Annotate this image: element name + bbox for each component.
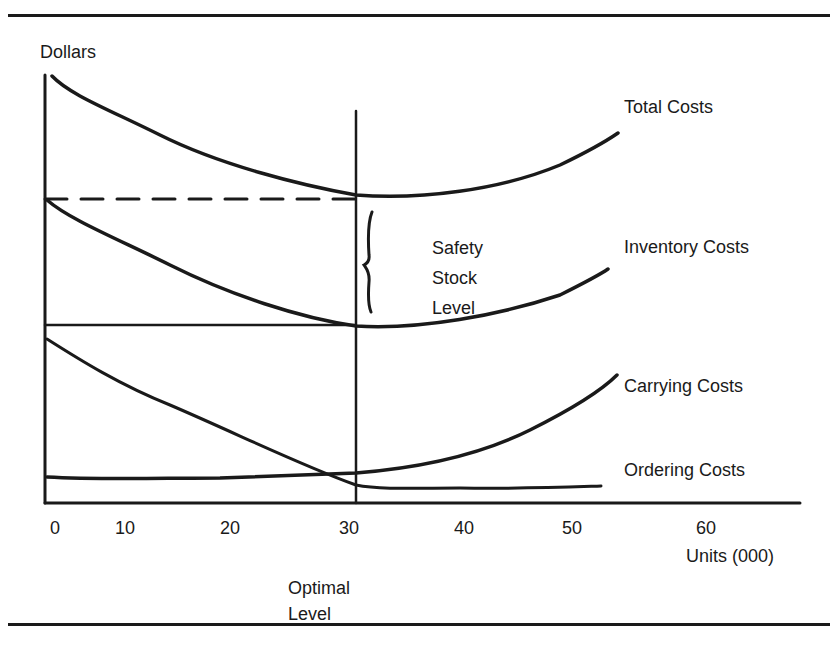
label-safety: Safety <box>432 236 483 260</box>
x-tick-20: 20 <box>220 516 240 540</box>
label-stock: Stock <box>432 266 477 290</box>
y-axis-label: Dollars <box>40 40 96 64</box>
x-tick-50: 50 <box>562 516 582 540</box>
label-optimal: Optimal <box>288 576 350 600</box>
label-level: Level <box>432 296 475 320</box>
total-costs-curve <box>52 76 618 196</box>
carrying-costs-curve <box>47 375 617 479</box>
x-tick-0: 0 <box>50 516 60 540</box>
label-ordering-costs: Ordering Costs <box>624 458 745 482</box>
label-total-costs: Total Costs <box>624 95 713 119</box>
safety-stock-brace <box>364 212 372 312</box>
x-tick-10: 10 <box>115 516 135 540</box>
label-inventory-costs: Inventory Costs <box>624 235 749 259</box>
label-carrying-costs: Carrying Costs <box>624 374 743 398</box>
label-optimal-level: Level <box>288 602 331 626</box>
x-tick-60: 60 <box>696 516 716 540</box>
x-tick-40: 40 <box>454 516 474 540</box>
inventory-costs-curve <box>47 200 608 327</box>
x-tick-30: 30 <box>339 516 359 540</box>
x-axis-label: Units (000) <box>686 544 774 568</box>
ordering-costs-curve <box>47 339 601 488</box>
